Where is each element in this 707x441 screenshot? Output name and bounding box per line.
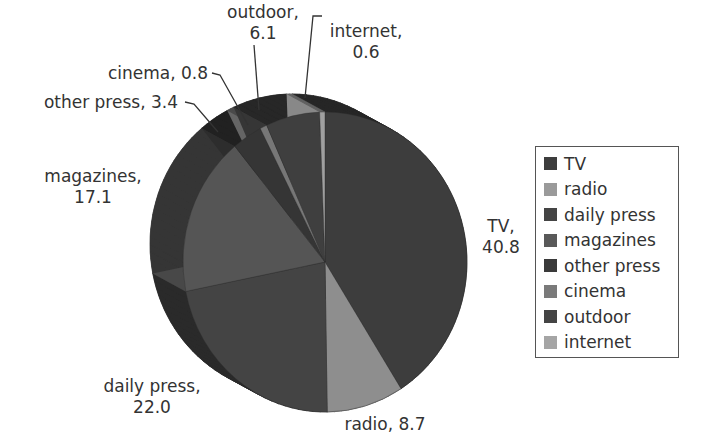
label-tv: TV, 40.8	[466, 216, 536, 258]
legend-item-daily-press: daily press	[544, 202, 678, 228]
label-magazines-name: magazines,	[38, 166, 148, 187]
label-internet: internet, 0.6	[316, 21, 416, 63]
legend-swatch	[544, 234, 557, 247]
label-radio: radio, 8.7	[330, 414, 440, 435]
legend-label: internet	[564, 332, 631, 352]
legend-item-cinema: cinema	[544, 279, 678, 305]
label-magazines-value: 17.1	[38, 187, 148, 208]
label-internet-value: 0.6	[316, 42, 416, 63]
legend-label: cinema	[564, 281, 626, 301]
label-radio-text: radio, 8.7	[344, 414, 425, 434]
label-daily-press-value: 22.0	[92, 397, 212, 418]
legend-swatch	[544, 259, 557, 272]
legend: TV radio daily press magazines other pre…	[535, 146, 679, 358]
label-outdoor: outdoor, 6.1	[218, 2, 308, 44]
legend-swatch	[544, 310, 557, 323]
label-outdoor-value: 6.1	[218, 23, 308, 44]
legend-label: other press	[564, 256, 660, 276]
legend-swatch	[544, 285, 557, 298]
legend-swatch	[544, 336, 557, 349]
legend-swatch	[544, 157, 557, 170]
legend-item-outdoor: outdoor	[544, 304, 678, 330]
legend-label: radio	[564, 179, 607, 199]
label-tv-value: 40.8	[466, 237, 536, 258]
label-outdoor-name: outdoor,	[218, 2, 308, 23]
legend-label: daily press	[564, 205, 656, 225]
label-magazines: magazines, 17.1	[38, 166, 148, 208]
label-daily-press: daily press, 22.0	[92, 376, 212, 418]
label-daily-press-name: daily press,	[92, 376, 212, 397]
legend-label: magazines	[564, 230, 656, 250]
legend-swatch	[544, 208, 557, 221]
legend-label: outdoor	[564, 307, 630, 327]
label-cinema-text: cinema, 0.8	[108, 63, 208, 83]
legend-item-radio: radio	[544, 177, 678, 203]
label-cinema: cinema, 0.8	[68, 63, 208, 84]
label-other-press: other press, 3.4	[10, 92, 178, 113]
label-tv-name: TV,	[466, 216, 536, 237]
legend-item-magazines: magazines	[544, 228, 678, 254]
legend-swatch	[544, 183, 557, 196]
legend-item-tv: TV	[544, 151, 678, 177]
legend-label: TV	[564, 154, 586, 174]
label-internet-name: internet,	[316, 21, 416, 42]
legend-item-internet: internet	[544, 330, 678, 356]
label-other-press-text: other press, 3.4	[44, 92, 178, 112]
legend-item-other-press: other press	[544, 253, 678, 279]
